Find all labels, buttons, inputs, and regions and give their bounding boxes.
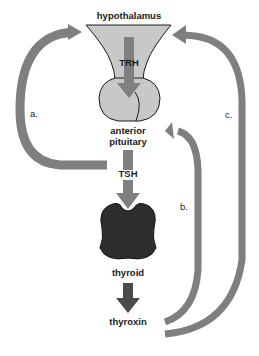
feedback-arrowhead-a	[68, 24, 82, 40]
feedback-arrow-a	[20, 32, 107, 165]
anterior-pituitary-label-line1: anterior	[98, 125, 158, 136]
tsh-label: TSH	[110, 168, 146, 179]
thyroid-shape	[100, 203, 156, 258]
thyroxin-arrow-head	[116, 298, 140, 313]
feedback-arrowhead-b	[165, 122, 174, 139]
pituitary-to-tsh-shaft	[123, 150, 133, 170]
feedback-arrow-b	[165, 131, 198, 322]
loop-label-b: b.	[180, 201, 188, 212]
loop-label-c: c.	[225, 109, 232, 120]
trh-label: TRH	[114, 57, 144, 68]
thyroid-label: thyroid	[100, 267, 156, 278]
feedback-arrowhead-c	[172, 25, 186, 44]
hypothalamus-label: hypothalamus	[84, 10, 174, 21]
thyroxin-label: thyroxin	[96, 316, 160, 327]
feedback-arrow-c	[165, 35, 242, 334]
loop-label-a: a.	[30, 108, 38, 119]
anterior-pituitary-label-line2: pituitary	[98, 136, 158, 147]
